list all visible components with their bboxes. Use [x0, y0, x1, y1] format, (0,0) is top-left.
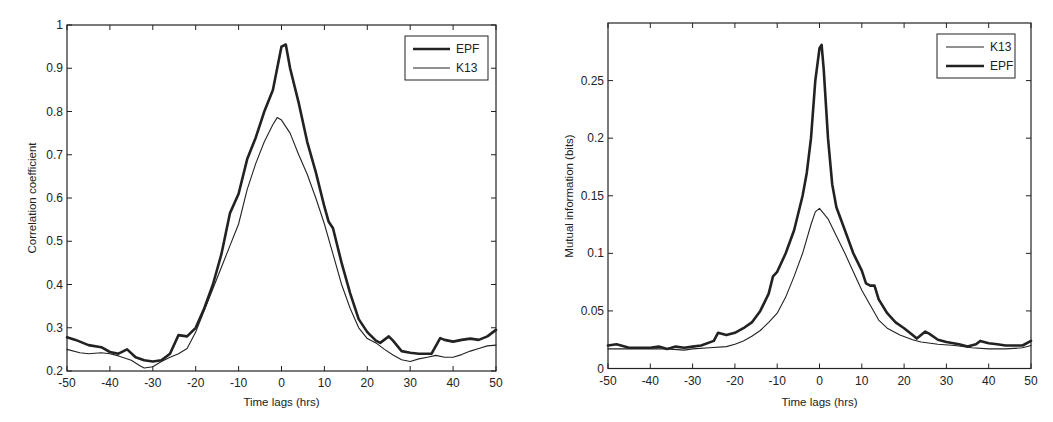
x-tick-label: 40 — [446, 376, 460, 390]
figure: -50-40-30-20-10010203040500.20.30.40.50.… — [0, 0, 1053, 422]
legend: EPF K13 — [405, 36, 488, 80]
y-tick-label: 0.05 — [581, 304, 605, 318]
x-tick-label: 40 — [982, 374, 996, 388]
x-tick-label: -50 — [599, 374, 617, 388]
y-tick-label: 0.9 — [46, 61, 63, 75]
y-tick-label: 0.2 — [587, 131, 604, 145]
y-axis-title: Mutual information (bits) — [563, 134, 575, 258]
x-tick-label: 20 — [361, 376, 375, 390]
y-axis-title: Correlation coefficient — [26, 142, 38, 254]
x-tick-label: 10 — [318, 376, 332, 390]
legend: K13 EPF — [937, 34, 1015, 78]
x-tick-label: 0 — [816, 374, 823, 388]
x-axis-title: Time lags (hrs) — [243, 396, 319, 408]
y-tick-label: 0.8 — [46, 105, 63, 119]
x-tick-label: -30 — [144, 376, 162, 390]
legend-label-epf: EPF — [456, 42, 479, 56]
legend-label-k13: K13 — [990, 40, 1012, 54]
y-tick-label: 0.3 — [46, 321, 63, 335]
y-tick-label: 0.25 — [581, 74, 605, 88]
x-tick-label: -20 — [187, 376, 205, 390]
x-tick-label: 10 — [855, 374, 869, 388]
x-tick-label: -50 — [58, 376, 76, 390]
y-tick-label: 0.6 — [46, 191, 63, 205]
y-tick-label: 0.2 — [46, 364, 63, 378]
y-tick-label: 0.15 — [581, 189, 605, 203]
legend-label-k13: K13 — [456, 61, 478, 75]
x-tick-label: 20 — [897, 374, 911, 388]
y-tick-label: 0.1 — [587, 246, 604, 260]
x-tick-label: -10 — [769, 374, 787, 388]
x-tick-label: 30 — [404, 376, 418, 390]
x-tick-label: 30 — [940, 374, 954, 388]
y-tick-label: 0.4 — [46, 278, 63, 292]
x-tick-label: -40 — [101, 376, 119, 390]
correlation-chart: -50-40-30-20-10010203040500.20.30.40.50.… — [26, 18, 503, 408]
x-tick-label: -20 — [726, 374, 744, 388]
x-tick-label: -40 — [642, 374, 660, 388]
x-tick-label: 50 — [489, 376, 503, 390]
mutual-information-chart: -50-40-30-20-100102030405000.050.10.150.… — [563, 23, 1038, 408]
x-tick-label: -10 — [230, 376, 248, 390]
legend-label-epf: EPF — [990, 59, 1013, 73]
x-tick-label: 0 — [278, 376, 285, 390]
y-tick-label: 0 — [597, 362, 604, 376]
x-tick-label: 50 — [1024, 374, 1038, 388]
x-tick-label: -30 — [684, 374, 702, 388]
y-tick-label: 0.7 — [46, 148, 63, 162]
x-axis-title: Time lags (hrs) — [781, 396, 857, 408]
y-tick-label: 0.5 — [46, 234, 63, 248]
y-tick-label: 1 — [56, 18, 63, 32]
